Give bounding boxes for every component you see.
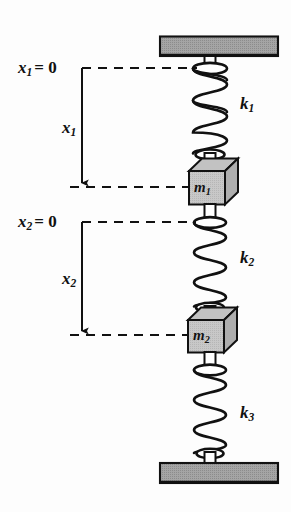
label-m2-var: m [193, 327, 205, 343]
spring-mass-system-figure: x1= 0 x1 x2= 0 x2 k1 k2 k3 m1 m2 [0, 0, 291, 512]
label-x2-dimension: x2 [62, 270, 76, 287]
label-x1-zero-var: x [18, 58, 27, 77]
label-x1-dimension: x1 [62, 119, 76, 136]
label-k2-sub: 2 [249, 256, 255, 269]
label-x2-zero-sub: 2 [27, 220, 33, 233]
floor-support-plate [160, 463, 278, 483]
label-m2-sub: 2 [205, 334, 210, 345]
ceiling-support-plate [160, 37, 278, 57]
label-k1: k1 [240, 95, 254, 112]
label-x1-dim-sub: 1 [71, 126, 77, 139]
coil-spring-k2 [194, 217, 226, 312]
coil-spring-k3 [194, 365, 226, 459]
label-k2: k2 [240, 249, 254, 266]
label-k3-var: k [240, 403, 249, 422]
label-m1-sub: 1 [206, 186, 211, 197]
label-x2-zero-eq: = 0 [32, 212, 56, 231]
label-x1-zero: x1= 0 [18, 59, 57, 76]
label-x2-zero-var: x [18, 212, 27, 231]
label-m1: m1 [194, 180, 211, 195]
label-x2-dim-var: x [62, 269, 71, 288]
label-x2-dim-sub: 2 [71, 277, 77, 290]
label-x2-zero: x2= 0 [18, 213, 57, 230]
label-k1-var: k [240, 94, 249, 113]
coil-spring-k1 [193, 63, 227, 160]
label-x1-zero-sub: 1 [27, 66, 33, 79]
label-k3-sub: 3 [249, 411, 255, 424]
label-m2: m2 [193, 328, 210, 343]
label-m1-var: m [194, 179, 206, 195]
label-x1-zero-eq: = 0 [32, 58, 56, 77]
label-x1-dim-var: x [62, 118, 71, 137]
label-k2-var: k [240, 248, 249, 267]
label-k3: k3 [240, 404, 254, 421]
label-k1-sub: 1 [249, 102, 255, 115]
